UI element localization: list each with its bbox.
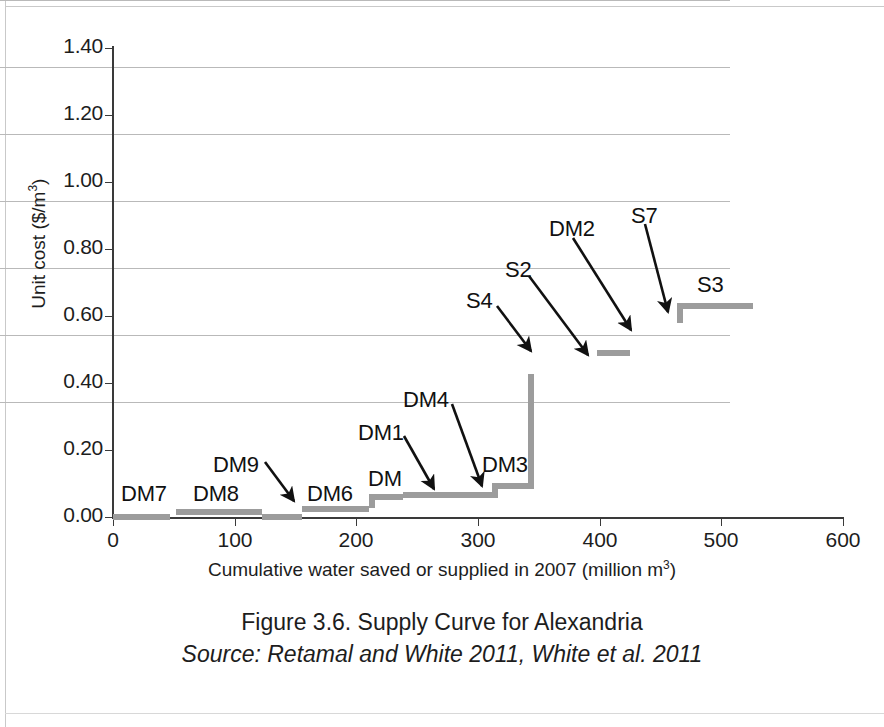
annotation-arrow-dm2: [573, 238, 631, 330]
scanned-page: 1.40 1.20 1.00 0.80 0.60 0.40 0.20 0.00 …: [0, 0, 884, 727]
figure-caption-title: Figure 3.6. Supply Curve for Alexandria: [0, 609, 884, 636]
figure-caption-source: Source: Retamal and White 2011, White et…: [0, 641, 884, 668]
annotation-arrow-s4: [497, 306, 531, 351]
annotation-arrow-s7: [645, 224, 668, 312]
annotation-arrow-dm9: [265, 462, 294, 501]
annotation-arrow-s2: [529, 276, 588, 355]
annotation-arrow-dm4: [452, 404, 482, 486]
supply-curve-figure: 1.40 1.20 1.00 0.80 0.60 0.40 0.20 0.00 …: [0, 0, 884, 727]
annotation-arrow-dm1: [404, 436, 434, 489]
